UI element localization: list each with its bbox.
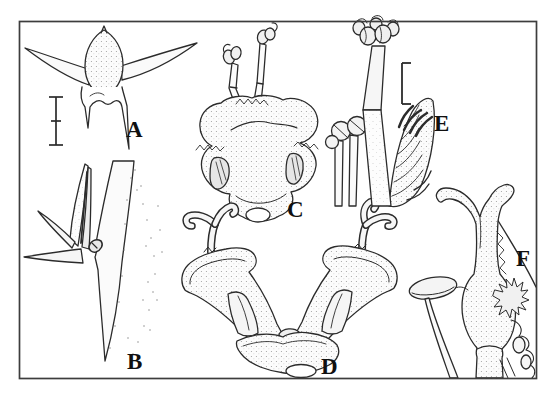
stem xyxy=(95,161,134,361)
staminode-spoon xyxy=(408,273,459,302)
left-style-stigma xyxy=(186,206,235,252)
right-style-stigma xyxy=(362,202,394,250)
panel-label-e: E xyxy=(434,112,449,135)
scale-bar-e xyxy=(402,63,411,104)
panel-label-a: A xyxy=(126,118,143,141)
feathery-stigma xyxy=(389,98,434,206)
panel-label-c: C xyxy=(287,198,304,221)
fruit-calyx-base xyxy=(81,87,129,149)
top-anther-left xyxy=(360,27,376,45)
panel-label-f: F xyxy=(516,247,530,270)
main-filament-upper xyxy=(363,46,385,110)
fruit-body xyxy=(85,30,123,96)
panel-e-stamens-illustration xyxy=(326,16,435,207)
figure-plate: A B C D E F xyxy=(0,0,555,400)
upper-spine xyxy=(38,211,75,248)
corolla-bottom-tip xyxy=(246,208,270,222)
long-spine xyxy=(24,249,83,263)
fruit-right-horn xyxy=(121,43,197,80)
stamen-right-filament xyxy=(254,43,266,102)
side-filament-1 xyxy=(335,140,343,206)
side-filament-2 xyxy=(349,135,358,206)
base-knob xyxy=(286,365,316,378)
scale-bar-a xyxy=(49,97,63,145)
panel-d-paired-calyces-illustration xyxy=(182,202,397,378)
round-anther-3 xyxy=(326,136,339,149)
staminode-stalk xyxy=(425,298,458,378)
main-filament-lower xyxy=(363,110,391,206)
panel-label-b: B xyxy=(127,350,142,373)
panel-f-pistil-illustration xyxy=(408,185,536,378)
panel-label-d: D xyxy=(321,355,338,378)
panel-c-flower-illustration xyxy=(196,23,318,222)
fruit-left-horn xyxy=(25,48,89,85)
panel-b-bud-illustration xyxy=(24,161,134,361)
panel-a-fruit-illustration xyxy=(25,26,197,149)
top-anther-right xyxy=(375,25,391,43)
botanical-line-art xyxy=(0,0,555,400)
